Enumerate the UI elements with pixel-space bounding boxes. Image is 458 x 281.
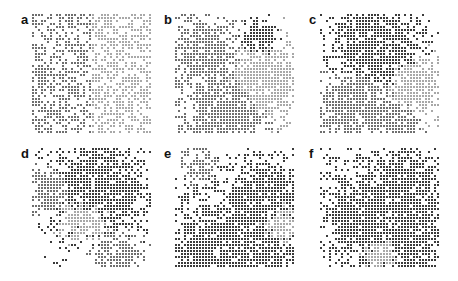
- lattice-panel-e: [175, 148, 295, 268]
- lattice-panel-f: [320, 148, 440, 268]
- panel-label-a: a: [21, 13, 28, 26]
- panel-label-b: b: [164, 13, 172, 26]
- panel-label-d: d: [21, 147, 29, 160]
- lattice-panel-a: [32, 14, 152, 134]
- lattice-panel-d: [32, 148, 152, 268]
- panel-label-f: f: [309, 147, 313, 160]
- lattice-panel-b: [175, 14, 295, 134]
- lattice-panel-c: [320, 14, 440, 134]
- panel-label-e: e: [164, 147, 171, 160]
- panel-label-c: c: [309, 13, 316, 26]
